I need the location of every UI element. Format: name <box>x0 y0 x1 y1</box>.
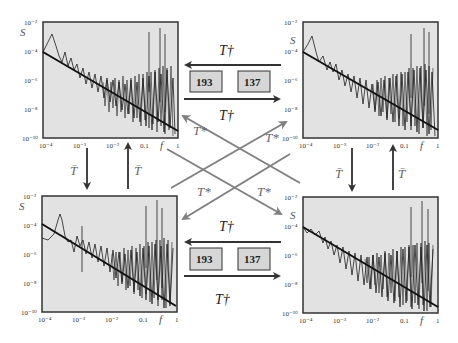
spectrum-plot-bottom-left: 10⁻² 10⁻⁴ 10⁻⁶ 10⁻⁸ 10⁻¹⁰ 10⁻⁴ 10⁻³ 10⁻²… <box>19 193 179 325</box>
top-operator-group: T† 193 137 T† <box>184 43 281 123</box>
svg-text:10⁻⁴: 10⁻⁴ <box>299 317 313 325</box>
top-t-dagger-label-lower: T† <box>219 108 235 123</box>
svg-text:10⁻⁴: 10⁻⁴ <box>284 223 298 231</box>
svg-text:1: 1 <box>436 142 440 150</box>
y-axis-label-s: S <box>20 26 26 38</box>
svg-text:10⁻⁶: 10⁻⁶ <box>24 77 38 85</box>
x-axis-label-f: f <box>420 139 425 151</box>
svg-text:10⁻⁴: 10⁻⁴ <box>299 142 313 150</box>
x-axis-label-f: f <box>160 139 165 151</box>
svg-text:10⁻³: 10⁻³ <box>333 317 346 325</box>
box-193-bottom-label: 193 <box>196 253 213 265</box>
spectrum-plot-bottom-right: 10⁻² 10⁻⁴ 10⁻⁶ 10⁻⁸ 10⁻¹⁰ 10⁻⁴ 10⁻³ 10⁻²… <box>282 194 440 326</box>
svg-text:1: 1 <box>176 142 180 150</box>
x-tick-labels: 10⁻⁴ 10⁻³ 10⁻² 0.1 1 <box>299 142 440 150</box>
svg-text:10⁻²: 10⁻² <box>23 193 36 201</box>
svg-text:10⁻⁴: 10⁻⁴ <box>284 48 298 56</box>
x-tick-labels: 10⁻⁴ 10⁻³ 10⁻² 0.1 1 <box>299 317 440 325</box>
y-axis-label-s: S <box>290 209 296 221</box>
x-tick-labels: 10⁻⁴ 10⁻³ 10⁻² 0.1 1 <box>39 142 180 150</box>
left-t-bar-label-1: T̄ <box>70 163 78 178</box>
svg-text:10⁻⁸: 10⁻⁸ <box>23 280 37 288</box>
svg-text:10⁻³: 10⁻³ <box>73 142 86 150</box>
svg-text:10⁻⁴: 10⁻⁴ <box>24 48 38 56</box>
spectrum-plot-top-left: 10⁻² 10⁻⁴ 10⁻⁶ 10⁻⁸ 10⁻¹⁰ 10⁻⁴ 10⁻³ 10⁻²… <box>20 19 180 151</box>
box-137-bottom-label: 137 <box>244 253 261 265</box>
svg-text:10⁻⁸: 10⁻⁸ <box>24 106 38 114</box>
t-star-label-upper-left: T* <box>193 123 207 138</box>
svg-text:10⁻²: 10⁻² <box>366 317 379 325</box>
svg-text:0.1: 0.1 <box>139 316 148 324</box>
right-t-bar-label-2: T̄ <box>398 166 406 181</box>
x-tick-labels: 10⁻⁴ 10⁻³ 10⁻² 0.1 1 <box>38 316 179 324</box>
t-star-label-lower-right: T* <box>257 184 271 199</box>
svg-text:10⁻⁶: 10⁻⁶ <box>284 77 298 85</box>
svg-text:10⁻⁴: 10⁻⁴ <box>39 142 53 150</box>
spectrum-plot-top-right: 10⁻² 10⁻⁴ 10⁻⁶ 10⁻⁸ 10⁻¹⁰ 10⁻⁴ 10⁻³ 10⁻²… <box>282 19 440 151</box>
svg-text:10⁻⁴: 10⁻⁴ <box>23 222 37 230</box>
svg-text:0.1: 0.1 <box>140 142 149 150</box>
svg-text:10⁻²: 10⁻² <box>284 19 297 27</box>
left-t-bar-label-2: T̄ <box>134 163 142 178</box>
bottom-t-dagger-label-lower: T† <box>215 292 231 307</box>
t-star-label-lower-left: T* <box>197 184 211 199</box>
t-star-label-upper-right: T* <box>265 130 279 145</box>
box-193-top-label: 193 <box>196 76 213 88</box>
svg-text:10⁻²: 10⁻² <box>366 142 379 150</box>
svg-text:10⁻⁶: 10⁻⁶ <box>284 252 298 260</box>
right-t-bar-label-1: T̄ <box>335 166 343 181</box>
svg-text:10⁻⁶: 10⁻⁶ <box>23 251 37 259</box>
svg-text:10⁻¹⁰: 10⁻¹⁰ <box>21 309 37 317</box>
svg-text:10⁻¹⁰: 10⁻¹⁰ <box>22 135 38 143</box>
svg-text:10⁻⁸: 10⁻⁸ <box>284 281 298 289</box>
svg-text:10⁻¹⁰: 10⁻¹⁰ <box>282 135 298 143</box>
svg-text:10⁻¹⁰: 10⁻¹⁰ <box>282 310 298 318</box>
svg-text:10⁻²: 10⁻² <box>105 316 118 324</box>
svg-text:10⁻³: 10⁻³ <box>333 142 346 150</box>
svg-text:0.1: 0.1 <box>400 142 409 150</box>
svg-text:1: 1 <box>436 317 440 325</box>
box-137-top-label: 137 <box>244 76 261 88</box>
left-vertical-operators: T̄ T̄ <box>70 144 142 189</box>
svg-text:10⁻³: 10⁻³ <box>72 316 85 324</box>
svg-text:0.1: 0.1 <box>400 317 409 325</box>
x-axis-label-f: f <box>159 313 164 325</box>
y-axis-label-s: S <box>290 34 296 46</box>
svg-text:10⁻²: 10⁻² <box>284 194 297 202</box>
top-t-dagger-label-upper: T† <box>219 43 235 58</box>
diagonal-t-star-operators: T* T* T* T* <box>167 116 300 219</box>
svg-text:10⁻⁸: 10⁻⁸ <box>284 106 298 114</box>
bottom-t-dagger-label-upper: T† <box>219 219 235 234</box>
right-vertical-operators: T̄ T̄ <box>335 146 406 190</box>
svg-text:10⁻²: 10⁻² <box>24 19 37 27</box>
diagram-canvas: 10⁻² 10⁻⁴ 10⁻⁶ 10⁻⁸ 10⁻¹⁰ 10⁻⁴ 10⁻³ 10⁻²… <box>0 0 458 343</box>
svg-text:10⁻²: 10⁻² <box>106 142 119 150</box>
x-axis-label-f: f <box>420 314 425 326</box>
svg-text:1: 1 <box>175 316 179 324</box>
bottom-operator-group: T† 193 137 T† <box>184 219 281 307</box>
y-axis-label-s: S <box>19 200 25 212</box>
svg-text:10⁻⁴: 10⁻⁴ <box>38 316 52 324</box>
